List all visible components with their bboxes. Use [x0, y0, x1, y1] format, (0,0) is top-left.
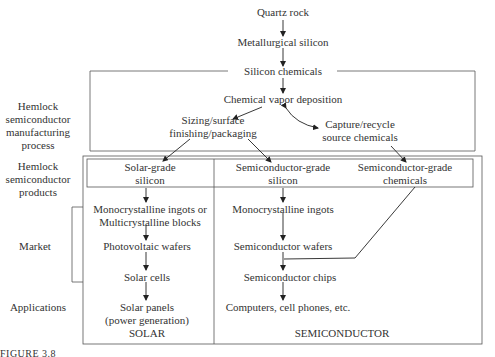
product-semi-si-line1: Semiconductor-grade: [236, 161, 330, 174]
node-cvd: Chemical vapor deposition: [224, 93, 343, 106]
node-quartz-rock: Quartz rock: [257, 6, 309, 19]
semi-wafers: Semiconductor wafers: [234, 240, 333, 253]
side-products-line2: semiconductor: [6, 173, 71, 186]
node-sizing: Sizing/surface finishing/packaging: [169, 114, 256, 140]
node-capture-line1: Capture/recycle: [322, 118, 397, 131]
product-semi-grade-chemicals: Semiconductor-grade chemicals: [358, 161, 452, 187]
solar-panels: Solar panels (power generation) SOLAR: [105, 301, 189, 340]
semi-applications: Computers, cell phones, etc.: [226, 301, 351, 314]
semi-chips: Semiconductor chips: [244, 271, 337, 284]
solar-section-label: SOLAR: [105, 327, 189, 340]
side-products-line3: products: [6, 186, 71, 199]
node-silicon-chemicals: Silicon chemicals: [244, 65, 322, 78]
product-semi-chem-line1: Semiconductor-grade: [358, 161, 452, 174]
solar-panels-line1: Solar panels: [105, 301, 189, 314]
solar-pv-wafers: Photovoltaic wafers: [103, 240, 191, 253]
node-metallurgical-silicon: Metallurgical silicon: [237, 36, 328, 49]
side-products-line1: Hemlock: [6, 160, 71, 173]
side-label-products: Hemlock semiconductor products: [6, 160, 71, 199]
product-solar-line1: Solar-grade: [124, 161, 175, 174]
market-bracket: [72, 207, 83, 282]
semi-mono-ingots: Monocrystalline ingots: [232, 203, 334, 216]
solar-panels-line2: (power generation): [105, 314, 189, 327]
node-sizing-line2: finishing/packaging: [169, 127, 256, 140]
product-semi-grade-silicon: Semiconductor-grade silicon: [236, 161, 330, 187]
node-capture-line2: source chemicals: [322, 131, 397, 144]
side-mfg-line1: Hemlock: [6, 100, 71, 113]
product-semi-chem-line2: chemicals: [358, 174, 452, 187]
node-sizing-line1: Sizing/surface: [169, 114, 256, 127]
side-label-applications: Applications: [10, 301, 66, 314]
side-mfg-line3: manufacturing: [6, 126, 71, 139]
product-solar-grade-silicon: Solar-grade silicon: [124, 161, 175, 187]
product-semi-si-line2: silicon: [236, 174, 330, 187]
manufacturing-box: [90, 71, 475, 151]
side-label-manufacturing: Hemlock semiconductor manufacturing proc…: [6, 100, 71, 152]
side-label-market: Market: [19, 240, 51, 253]
solar-ingots-line1: Monocrystalline ingots or: [93, 203, 207, 216]
solar-cells: Solar cells: [124, 271, 170, 284]
side-mfg-line2: semiconductor: [6, 113, 71, 126]
side-mfg-line4: process: [6, 139, 71, 152]
solar-ingots: Monocrystalline ingots or Multicrystalli…: [93, 203, 207, 229]
semi-section-label: SEMICONDUCTOR: [295, 327, 390, 340]
solar-ingots-line2: Multicrystalline blocks: [93, 216, 207, 229]
node-capture-recycle: Capture/recycle source chemicals: [322, 118, 397, 144]
product-solar-line2: silicon: [124, 174, 175, 187]
figure-caption: FIGURE 3.8: [0, 348, 56, 357]
